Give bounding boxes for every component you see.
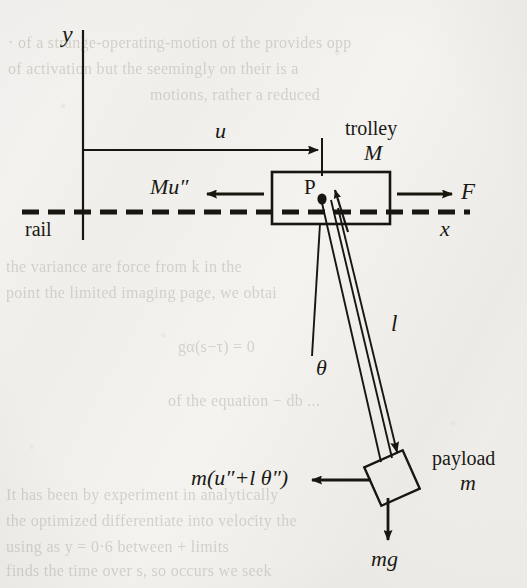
rail-label: rail <box>25 219 52 239</box>
vertical-reference-line <box>312 224 320 356</box>
payload-label: payload <box>432 448 495 468</box>
displacement-arrow-u <box>83 138 322 176</box>
cable-length-label: l <box>391 312 397 335</box>
trolley-box <box>272 172 390 224</box>
pivot-point-label: P <box>304 177 316 198</box>
pivot-point-marker <box>317 193 326 204</box>
diagram-vector-layer <box>0 0 527 588</box>
x-axis-label: x <box>440 218 450 240</box>
inertia-force-trolley-label: Mu″ <box>150 176 189 198</box>
trolley-label: trolley <box>345 118 397 138</box>
angle-label-theta: θ <box>316 357 327 379</box>
drive-force-label: F <box>461 180 475 203</box>
y-axis-label: y <box>62 22 73 46</box>
cable-rod <box>322 200 397 462</box>
trolley-mass-label: M <box>364 142 382 164</box>
figure-canvas: · of a strange-operating-motion of the p… <box>0 0 527 588</box>
payload-mass-label: m <box>460 472 476 494</box>
payload-box <box>364 450 419 505</box>
weight-label-mg: mg <box>371 548 398 570</box>
displacement-label-u: u <box>215 120 226 142</box>
inertia-force-payload-label: m(u″+l θ″) <box>191 467 288 489</box>
